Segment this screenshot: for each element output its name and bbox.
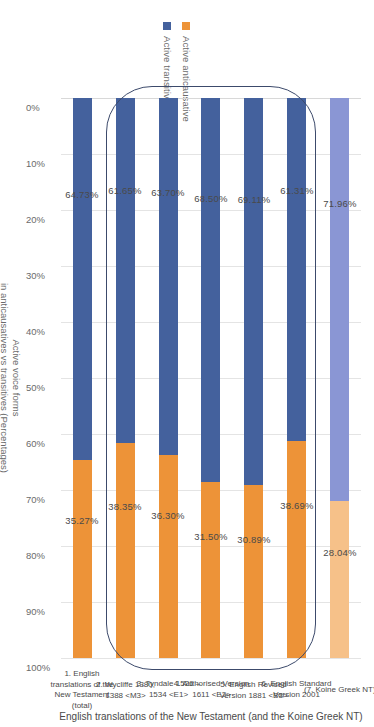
percent-axis: 0%10%20%30%40%50%60%70%80%90%100% (22, 98, 56, 658)
bar-row: 64.73%35.27% (73, 98, 92, 658)
bar-segment-transitive: 71.96% (330, 98, 349, 501)
bar-value-anticausative: 28.04% (323, 547, 356, 558)
legend-swatch-transitive (164, 22, 172, 30)
category-axis-title: English translations of the New Testamen… (59, 711, 362, 722)
stacked-bar-chart: Active anticausative Active transitive 6… (0, 0, 374, 727)
bar-row: 71.96%28.04% (330, 98, 349, 658)
percent-tick-label: 40% (26, 326, 45, 337)
percent-tick-label: 90% (26, 606, 45, 617)
chart-canvas: Active anticausative Active transitive 6… (0, 0, 374, 727)
highlight-annotation (106, 86, 316, 670)
percent-tick-label: 100% (26, 662, 50, 673)
bar-value-anticausative: 35.27% (66, 515, 99, 526)
bar-segment-transitive: 64.73% (73, 98, 92, 460)
percent-tick-label: 30% (26, 270, 45, 281)
bar-value-transitive: 71.96% (323, 198, 356, 209)
percent-tick-label: 20% (26, 214, 45, 225)
plot-area: 64.73%35.27%61.65%38.35%63.70%36.30%68.5… (61, 98, 361, 658)
category-label-line: (7. Koine Greek NT) (304, 685, 374, 696)
percent-tick-label: 0% (26, 102, 40, 113)
percent-tick-label: 10% (26, 158, 45, 169)
bar-segment-anticausative: 35.27% (73, 460, 92, 658)
bar-value-transitive: 64.73% (66, 189, 99, 200)
percent-axis-title: Active voice forms in anticausatives vs … (0, 98, 22, 658)
percent-tick-label: 60% (26, 438, 45, 449)
bar-segment-anticausative: 28.04% (330, 501, 349, 658)
percent-tick-label: 50% (26, 382, 45, 393)
percent-tick-label: 80% (26, 550, 45, 561)
legend-swatch-anticausative (183, 22, 191, 30)
percent-axis-title-line1: Active voice forms (10, 98, 22, 658)
category-label-text: (7. Koine Greek NT) (304, 685, 374, 696)
percent-tick-label: 70% (26, 494, 45, 505)
percent-axis-title-line2: in anticausatives vs transitives (Percen… (0, 98, 10, 658)
